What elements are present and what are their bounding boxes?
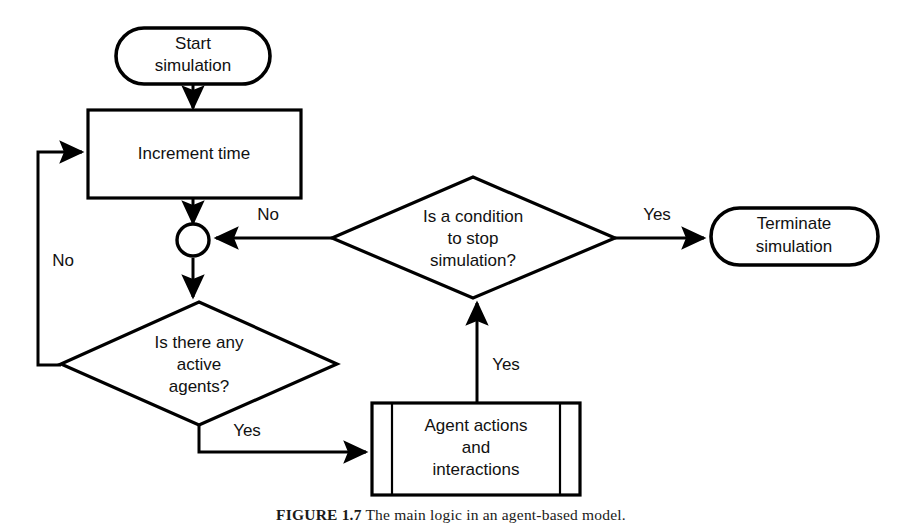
node-terminate-simulation[interactable]: Terminate simulation xyxy=(711,208,878,265)
node-agent-actions-line1: Agent actions xyxy=(424,416,527,435)
node-stop-condition-decision[interactable]: Is a condition to stop simulation? xyxy=(332,177,615,298)
edge-label-yes-to-actions: Yes xyxy=(233,421,261,440)
edge-no-to-merge: No xyxy=(216,205,332,238)
node-stop-condition-line2: to stop xyxy=(447,229,498,248)
node-increment-time-label: Increment time xyxy=(138,144,250,163)
edge-yes-to-terminate: Yes xyxy=(615,205,704,238)
node-merge-connector[interactable] xyxy=(177,224,209,256)
figure-canvas: No Yes Yes No Yes Start simulation xyxy=(0,0,902,528)
flowchart-diagram: No Yes Yes No Yes Start simulation xyxy=(0,0,902,528)
node-start-simulation[interactable]: Start simulation xyxy=(116,28,270,84)
figure-caption-label: FIGURE 1.7 xyxy=(276,506,362,523)
node-active-agents-line1: Is there any xyxy=(155,333,244,352)
edge-no-loopback-to-increment: No xyxy=(38,152,82,365)
edge-label-yes-to-terminate: Yes xyxy=(643,205,671,224)
edge-label-yes-to-condition: Yes xyxy=(492,355,520,374)
node-active-agents-line3: agents? xyxy=(169,377,230,396)
figure-caption: FIGURE 1.7 The main logic in an agent-ba… xyxy=(0,506,902,524)
node-active-agents-line2: active xyxy=(177,355,221,374)
figure-caption-text: The main logic in an agent-based model. xyxy=(365,506,625,523)
node-terminate-simulation-line1: Terminate xyxy=(757,214,832,233)
edge-label-no-to-merge: No xyxy=(257,205,279,224)
edge-label-no-loopback: No xyxy=(52,251,74,270)
node-start-simulation-line2: simulation xyxy=(155,56,232,75)
node-agent-actions-line2: and xyxy=(462,438,490,457)
edge-yes-to-agent-actions: Yes xyxy=(199,421,366,452)
node-stop-condition-line3: simulation? xyxy=(430,251,516,270)
node-agent-actions-line3: interactions xyxy=(433,460,520,479)
node-start-simulation-line1: Start xyxy=(175,34,211,53)
node-increment-time[interactable]: Increment time xyxy=(88,110,301,198)
node-active-agents-decision[interactable]: Is there any active agents? xyxy=(61,302,337,425)
node-terminate-simulation-line2: simulation xyxy=(756,237,833,256)
edge-yes-to-stop-condition: Yes xyxy=(477,303,520,403)
node-stop-condition-line1: Is a condition xyxy=(423,207,523,226)
node-agent-actions[interactable]: Agent actions and interactions xyxy=(372,403,580,495)
